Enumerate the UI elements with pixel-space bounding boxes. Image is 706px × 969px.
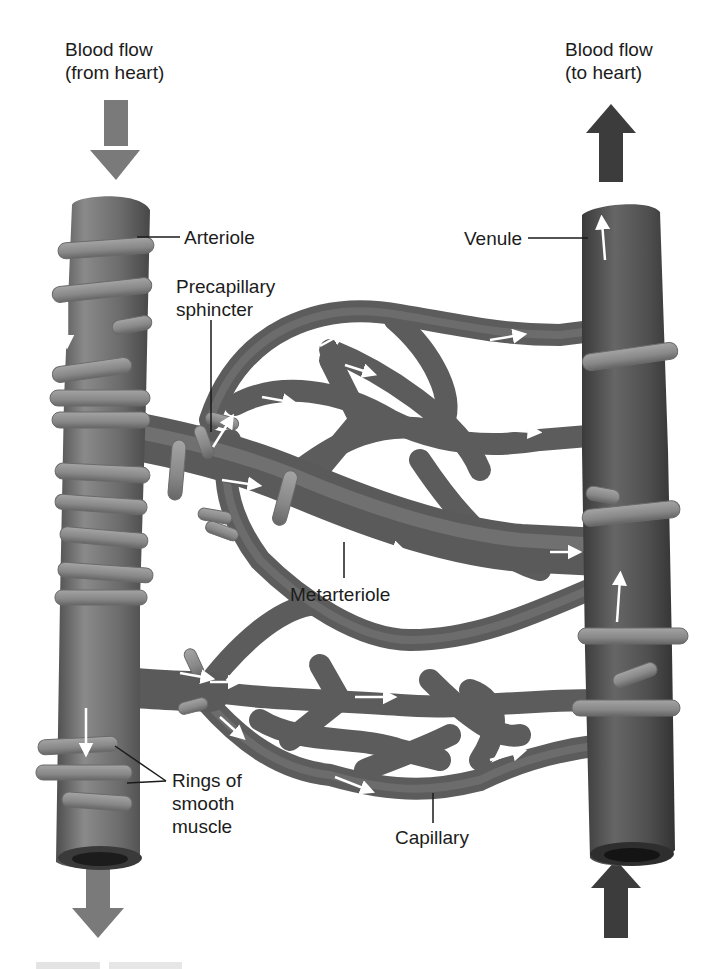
arrow-up-icon (591, 860, 641, 938)
venule-label: Venule (464, 227, 522, 250)
blood-flow-out-label: Blood flow (to heart) (565, 38, 653, 84)
blood-flow-in-label: Blood flow (from heart) (65, 38, 164, 84)
precapillary-sphincter-label: Precapillary sphincter (176, 275, 275, 321)
rings-of-smooth-muscle-label: Rings of smooth muscle (172, 769, 242, 838)
capillary-bed-diagram (0, 0, 706, 969)
arteriole-label: Arteriole (184, 226, 255, 249)
arrow-down-icon (90, 100, 140, 180)
arrow-up-icon (586, 104, 636, 182)
metarteriole-label: Metarteriole (290, 583, 390, 606)
arrow-down-icon (72, 858, 124, 938)
venule-vessel (582, 204, 675, 866)
metarteriole-vessel (80, 425, 600, 692)
figure-caption-cropped (36, 962, 182, 969)
capillary-label: Capillary (395, 826, 469, 849)
